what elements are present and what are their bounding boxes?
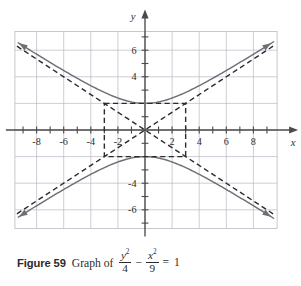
y-tick-label: 6 [131,45,136,56]
x-tick-label: -8 [32,136,41,147]
x-tick-label: -2 [114,136,123,147]
y-axis-arrowhead [141,10,148,19]
fraction-x-squared-over-9: x2 9 [146,250,159,275]
fraction-y-squared-over-4: y2 4 [119,250,132,275]
caption-equation: y2 4 − x2 9 = 1 [117,250,182,275]
denominator-4: 4 [120,263,130,275]
x-tick-label: -6 [59,136,68,147]
arrowhead-lower-left [19,210,28,217]
caption-lead-text: Graph of [72,257,114,270]
figure-container: -8-6-4-2246864-4-6xy Figure 59 Graph of … [0,0,301,286]
numerator-x-exponent: 2 [153,248,157,256]
x-axis-arrowhead [289,126,298,133]
denominator-9: 9 [147,263,157,275]
equation-result: 1 [174,256,180,269]
x-tick-label: 6 [224,136,229,147]
x-tick-label: 4 [197,136,202,147]
arrowhead-upper-right [262,43,271,50]
figure-caption: Figure 59 Graph of y2 4 − x2 9 = 1 [17,246,297,280]
plot-svg: -8-6-4-2246864-4-6xy [0,0,301,240]
arrowhead-lower-right [262,210,271,217]
x-axis-label: x [290,137,296,148]
y-axis-label: y [130,11,136,22]
numerator-y-squared: y2 [119,250,132,261]
x-tick-label: 2 [170,136,175,147]
y-tick-label: 4 [131,71,136,82]
axes [6,10,298,237]
x-tick-label: 8 [251,136,256,147]
hyperbola-plot: -8-6-4-2246864-4-6xy [0,0,301,240]
equals-sign: = [163,256,170,269]
figure-number: Figure 59 [17,257,66,269]
y-tick-label: -4 [128,178,137,189]
minus-operator: − [135,256,142,269]
y-tick-label: -6 [128,204,137,215]
numerator-x-squared: x2 [146,250,159,261]
x-tick-label: -4 [87,136,96,147]
numerator-y-exponent: 2 [126,248,130,256]
arrowhead-upper-left [19,43,28,50]
